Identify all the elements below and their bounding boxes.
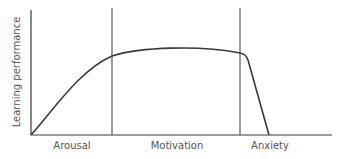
zone-label-arousal: Arousal	[53, 140, 90, 151]
zone-label-motivation: Motivation	[151, 140, 204, 151]
zone-label-anxiety: Anxiety	[251, 140, 289, 151]
y-axis-label: Learning performance	[11, 17, 22, 128]
performance-diagram: Learning performance Arousal Motivation …	[0, 0, 345, 159]
performance-curve	[31, 48, 269, 135]
